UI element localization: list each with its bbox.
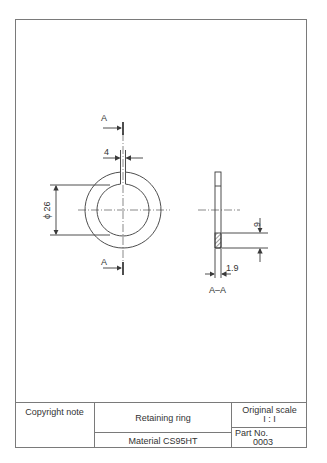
- material-field: Material CS95HT: [95, 433, 232, 448]
- part-number-field: Part No. 0003: [232, 428, 307, 448]
- part-title: Retaining ring: [95, 403, 232, 433]
- hatched-section: [215, 233, 221, 248]
- technical-drawing: A A 4 ϕ 26 6 1.9 A–A: [0, 0, 327, 463]
- ring-front-view: [50, 122, 170, 275]
- part-number-value: 0003: [235, 438, 307, 447]
- section-marker-top-label: A: [101, 113, 107, 123]
- section-marker-bottom-label: A: [101, 257, 107, 267]
- thickness-dimension-label: 1.9: [226, 263, 239, 273]
- gap-dimension-label: 4: [104, 147, 109, 157]
- title-block: Copyright note Retaining ring Material C…: [15, 402, 307, 448]
- section-view-label: A–A: [209, 285, 226, 295]
- diameter-dimension-label: ϕ 26: [42, 201, 52, 219]
- width-dimension-label: 6: [252, 222, 262, 227]
- scale-field: Original scale I : I: [232, 403, 307, 428]
- copyright-note: Copyright note: [15, 403, 95, 448]
- scale-value: I : I: [263, 414, 276, 424]
